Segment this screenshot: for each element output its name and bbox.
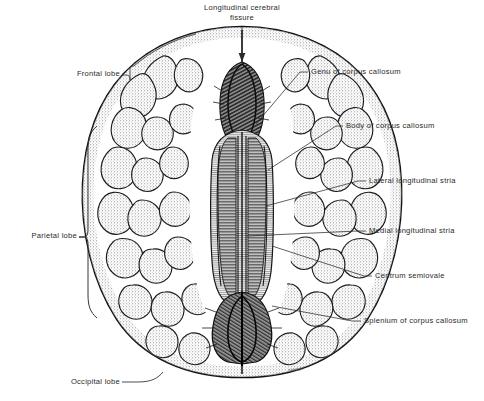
label-splenium-of-corpus-callosum: Splenium of corpus callosum [364,316,468,326]
label-line-1: Longitudinal cerebral [204,3,280,12]
label-medial-longitudinal-stria: Medial longitudinal stria [369,226,455,236]
body-of-corpus-callosum [211,130,274,310]
brain-axial-section-figure: Longitudinal cerebral fissure Frontal lo… [0,0,484,401]
label-longitudinal-cerebral-fissure: Longitudinal cerebral fissure [162,3,322,23]
label-centrum-semiovale: Centrum semiovale [375,271,445,281]
label-line-2: fissure [230,13,254,22]
label-genu-of-corpus-callosum: Genu of corpus callosum [311,67,401,77]
anatomical-illustration [0,0,484,401]
leader-occipital-lobe [122,372,163,382]
label-lateral-longitudinal-stria: Lateral longitudinal stria [369,176,456,186]
label-parietal-lobe: Parietal lobe [0,231,77,241]
label-occipital-lobe: Occipital lobe [0,377,120,387]
label-frontal-lobe: Frontal lobe [0,69,120,79]
label-body-of-corpus-callosum: Body of corpus callosum [346,121,434,131]
